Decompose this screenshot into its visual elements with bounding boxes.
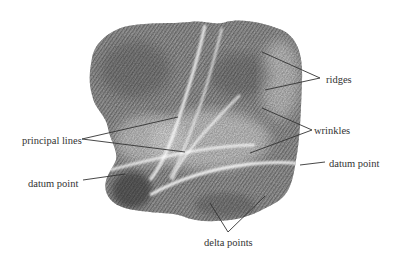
label-datum-point-right: datum point (329, 159, 379, 170)
label-principal-lines: principal lines (22, 136, 82, 147)
label-wrinkles: wrinkles (314, 126, 350, 137)
label-ridges: ridges (326, 75, 352, 86)
datum-point-right-leader (300, 162, 325, 165)
palmprint-diagram: ridges wrinkles datum point principal li… (0, 0, 395, 265)
label-delta-points: delta points (204, 238, 253, 249)
palm-texture (80, 15, 310, 230)
label-datum-point-left: datum point (28, 179, 78, 190)
